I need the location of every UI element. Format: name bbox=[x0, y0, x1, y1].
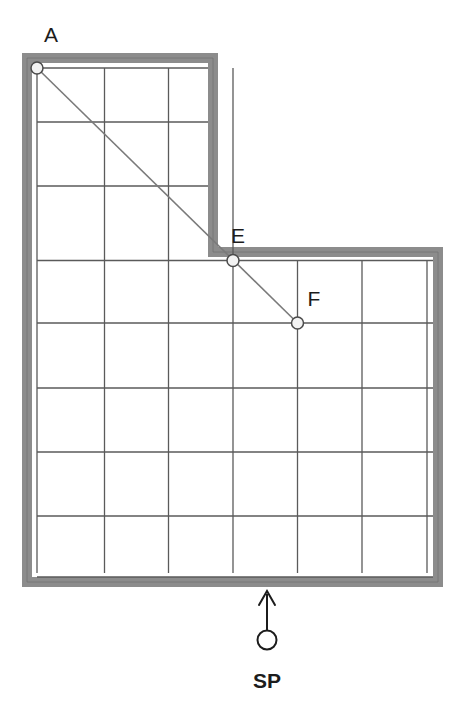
floorplan-diagram: A E F SP bbox=[0, 0, 469, 713]
point-marker-a bbox=[31, 62, 43, 74]
label-sp: SP bbox=[253, 669, 281, 692]
point-marker-e bbox=[227, 255, 239, 267]
floorplan-canvas: A E F SP bbox=[0, 0, 469, 713]
viewer-sp: SP bbox=[253, 591, 281, 692]
label-a: A bbox=[44, 23, 58, 46]
label-e: E bbox=[231, 224, 245, 247]
sp-viewer-circle-icon bbox=[258, 631, 277, 650]
label-f: F bbox=[308, 287, 321, 310]
point-marker-f bbox=[292, 317, 304, 329]
